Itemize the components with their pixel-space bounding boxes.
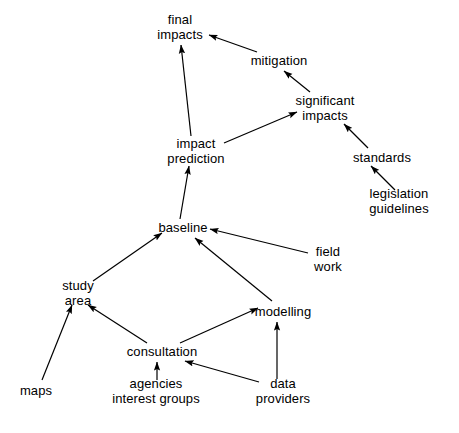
edge-consultation-to-study_area: [88, 305, 147, 343]
edge-study_area-to-baseline: [93, 233, 162, 281]
node-standards: standards: [353, 151, 411, 166]
node-label-line2: impacts: [157, 27, 203, 42]
node-mitigation: mitigation: [251, 54, 308, 69]
node-label-line1: legislation: [369, 187, 429, 202]
node-label-line1: study: [62, 279, 94, 294]
node-label-line2: guidelines: [369, 201, 429, 216]
node-significant_impacts: significantimpacts: [296, 94, 355, 123]
edge-baseline-to-impact_prediction: [180, 166, 189, 219]
node-label-line2: providers: [256, 391, 310, 406]
node-field_work: fieldwork: [314, 245, 342, 274]
node-label-line1: consultation: [127, 345, 198, 360]
node-final_impacts: finalimpacts: [157, 13, 203, 42]
node-label-line1: agencies: [112, 377, 200, 392]
node-label-line1: significant: [296, 94, 355, 109]
node-label-line1: impact: [167, 137, 224, 152]
node-label-line2: prediction: [167, 151, 224, 166]
edge-maps-to-study_area: [42, 305, 72, 380]
node-label-line1: standards: [353, 151, 411, 166]
edge-standards-to-significant_impacts: [344, 124, 368, 148]
edge-modelling-to-baseline: [195, 238, 272, 301]
node-label-line1: maps: [20, 384, 52, 399]
node-label-line1: modelling: [255, 305, 312, 320]
node-label-line2: interest groups: [112, 391, 200, 406]
node-modelling: modelling: [255, 305, 312, 320]
edge-consultation-to-modelling: [180, 308, 258, 343]
node-label-line2: impacts: [296, 108, 355, 123]
node-label-line1: final: [157, 13, 203, 28]
edge-impact_prediction-to-significant_impacts: [224, 112, 297, 143]
edge-mitigation-to-final_impacts: [209, 35, 257, 52]
edge-impact_prediction-to-final_impacts: [181, 45, 191, 136]
flow-diagram: finalimpactsmitigationsignificantimpacts…: [0, 0, 459, 433]
node-consultation: consultation: [127, 345, 198, 360]
edges-group: [42, 35, 395, 382]
node-label-line1: data: [256, 377, 310, 392]
node-data_providers: dataproviders: [256, 377, 310, 406]
node-legislation_guidelines: legislationguidelines: [369, 187, 429, 216]
node-label-line1: baseline: [158, 221, 207, 236]
node-impact_prediction: impactprediction: [167, 137, 224, 166]
node-label-line1: mitigation: [251, 54, 308, 69]
edge-layer: [0, 0, 459, 433]
edge-field_work-to-baseline: [210, 229, 308, 253]
node-study_area: studyarea: [62, 279, 94, 308]
node-maps: maps: [20, 384, 52, 399]
node-baseline: baseline: [158, 221, 207, 236]
node-label-line1: field: [314, 245, 342, 260]
edge-significant_impacts-to-mitigation: [284, 71, 310, 92]
node-agencies_interest_groups: agenciesinterest groups: [112, 377, 200, 406]
node-label-line2: area: [62, 293, 94, 308]
node-label-line2: work: [314, 259, 342, 274]
